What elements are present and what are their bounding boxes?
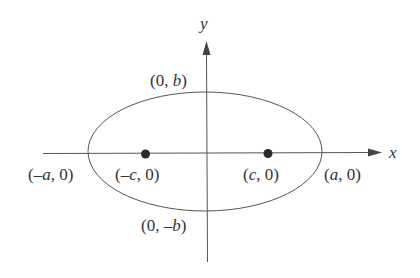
x-axis [43,153,372,154]
right-vertex-label: (a, 0) [324,165,361,184]
y-axis [207,52,208,262]
ellipse-diagram: x y (0, b) (0, –b) (–a, 0) (–c, 0) (c, 0… [0,0,420,278]
x-axis-arrow-icon [368,149,382,157]
y-axis-arrow-icon [203,41,211,55]
diagram-svg: x y (0, b) (0, –b) (–a, 0) (–c, 0) (c, 0… [0,0,420,278]
right-focus-label: (c, 0) [243,165,279,184]
x-axis-label: x [388,143,397,162]
left-vertex-label: (–a, 0) [28,165,73,184]
right-focus-point [264,149,273,158]
bottom-vertex-label: (0, –b) [141,216,186,235]
top-vertex-label: (0, b) [150,71,187,90]
y-axis-label: y [198,14,208,33]
left-focus-point [141,150,150,159]
ellipse-curve [88,92,322,211]
left-focus-label: (–c, 0) [115,165,159,184]
